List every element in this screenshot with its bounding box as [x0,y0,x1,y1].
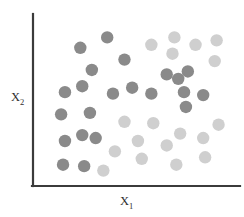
data-point [168,31,180,43]
data-point [109,145,121,157]
y-axis-label-subscript: 2 [20,97,24,107]
data-point [199,151,211,163]
data-point [57,158,69,170]
data-point [74,42,86,54]
data-point [180,101,192,113]
data-point [145,39,157,51]
scatter-plot-canvas: X 2 X 1 [0,0,244,217]
data-point [97,164,109,176]
data-point [161,68,173,80]
data-point [147,117,159,129]
data-point [107,87,119,99]
x-axis-label: X 1 [120,194,133,211]
data-point [132,135,144,147]
y-axis-label: X 2 [11,90,24,107]
data-point [182,65,194,77]
series-class-dark [55,31,209,172]
data-point [86,64,98,76]
data-point [118,53,130,65]
data-point [178,86,190,98]
x-axis-label-text: X [120,194,129,208]
data-point [210,34,222,46]
y-axis-label-text: X [11,90,20,104]
data-point [59,86,71,98]
data-point [76,80,88,92]
data-point [89,132,101,144]
data-point [118,116,130,128]
data-point [212,119,224,131]
data-point [197,132,209,144]
data-point [145,87,157,99]
data-point [197,89,209,101]
data-points-layer [55,31,225,177]
data-point [166,47,178,59]
x-axis-label-subscript: 1 [129,201,133,211]
data-point [174,127,186,139]
data-point [209,55,221,67]
data-point [59,135,71,147]
data-point [78,160,90,172]
data-point [101,31,113,43]
data-point [189,39,201,51]
data-point [76,129,88,141]
data-point [84,107,96,119]
data-point [136,153,148,165]
data-point [55,108,67,120]
data-point [170,158,182,170]
data-point [126,82,138,94]
scatter-plot-figure: X 2 X 1 [0,0,244,217]
series-class-light [97,31,225,177]
data-point [161,139,173,151]
